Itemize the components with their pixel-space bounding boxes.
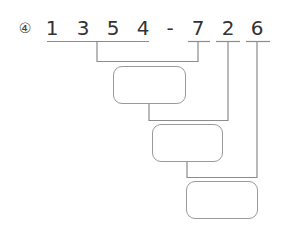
answer-box-1[interactable] (113, 66, 186, 104)
answer-box-2[interactable] (152, 124, 223, 162)
subtraction-diagram: ④ 1 3 5 4 - 7 2 6 (0, 0, 284, 234)
bracket-1354-7 (97, 42, 198, 62)
answer-box-3[interactable] (186, 181, 258, 219)
